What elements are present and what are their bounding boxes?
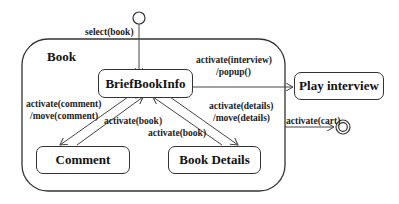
transition-label-interview-action: /popup() bbox=[216, 67, 251, 78]
state-play-interview: Play interview bbox=[294, 72, 384, 100]
state-brief-book-info: BriefBookInfo bbox=[98, 69, 193, 98]
initial-state-icon bbox=[133, 12, 145, 24]
state-label: Book Details bbox=[179, 152, 249, 168]
state-label: Play interview bbox=[299, 78, 379, 94]
state-label: Comment bbox=[56, 152, 111, 168]
transition-label-cart: activate(cart) bbox=[286, 116, 340, 127]
composite-state-title: Book bbox=[47, 49, 76, 65]
transition-label-details-to-brief: activate(book) bbox=[148, 128, 206, 139]
transition-label-details: activate(details) bbox=[209, 101, 273, 112]
transition-label-details-action: /move(details) bbox=[213, 113, 270, 124]
transition-label-comment-action: /move(comment) bbox=[30, 111, 98, 122]
state-label: BriefBookInfo bbox=[105, 76, 185, 92]
transition-label-comment: activate(comment) bbox=[26, 99, 101, 110]
state-comment: Comment bbox=[36, 146, 130, 174]
transition-label-select: select(book) bbox=[85, 27, 134, 38]
transition-label-comment-to-brief: activate(book) bbox=[104, 116, 162, 127]
state-book-details: Book Details bbox=[168, 146, 261, 174]
transition-label-interview: activate(interview) bbox=[196, 55, 272, 66]
